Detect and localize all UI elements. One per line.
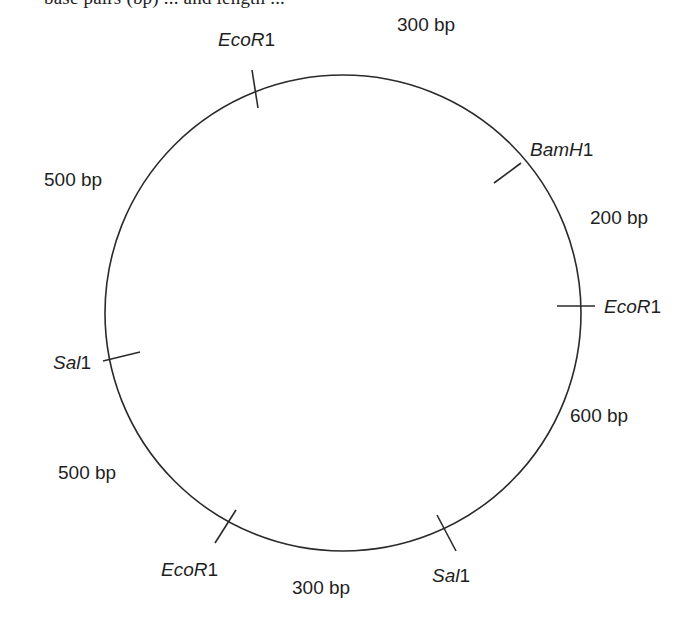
enzyme-number: 1 (650, 296, 661, 317)
site-label-sal1-bottom: Sal1 (432, 566, 470, 585)
enzyme-number: 1 (583, 139, 594, 160)
site-label-ecor1-bottom: EcoR1 (161, 560, 218, 579)
enzyme-number: 1 (80, 352, 91, 373)
site-label-sal1-left: Sal1 (53, 353, 91, 372)
enzyme-number: 1 (264, 29, 275, 50)
fragment-label: 500 bp (58, 463, 116, 482)
enzyme-number: 1 (207, 559, 218, 580)
fragment-label: 500 bp (44, 170, 102, 189)
fragment-label: 300 bp (397, 15, 455, 34)
fragment-label: 200 bp (590, 208, 648, 227)
enzyme-number: 1 (459, 565, 470, 586)
enzyme-name: BamH (530, 139, 583, 160)
enzyme-name: EcoR (604, 296, 650, 317)
enzyme-name: Sal (432, 565, 459, 586)
site-label-ecor1-right: EcoR1 (604, 297, 661, 316)
enzyme-name: Sal (53, 352, 80, 373)
site-tick-bamh1 (494, 163, 521, 183)
site-label-ecor1-top: EcoR1 (218, 30, 275, 49)
site-tick-sal1-bottom (437, 515, 456, 551)
fragment-label: 300 bp (292, 578, 350, 597)
site-tick-ecor1-top (252, 70, 258, 108)
plasmid-map (0, 0, 697, 626)
plasmid-circle (105, 75, 581, 551)
enzyme-name: EcoR (161, 559, 207, 580)
enzyme-name: EcoR (218, 29, 264, 50)
fragment-label: 600 bp (570, 406, 628, 425)
site-label-bamh1: BamH1 (530, 140, 593, 159)
